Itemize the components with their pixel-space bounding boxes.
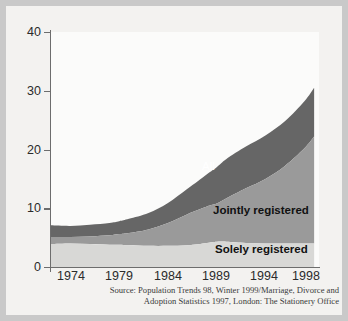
y-axis-line (50, 30, 51, 269)
source-note: Source: Population Trends 98, Winter 199… (60, 285, 339, 306)
y-tick-40 (44, 32, 50, 33)
x-axis-start-tick (50, 267, 51, 272)
x-tick-label-1984: 1984 (154, 269, 182, 283)
y-tick-label-20: 20 (27, 143, 41, 157)
x-tick-label-1974: 1974 (57, 269, 85, 283)
source-note-line-1: Source: Population Trends 98, Winter 199… (60, 285, 339, 296)
y-tick-20 (44, 150, 50, 151)
x-tick-label-1994: 1994 (250, 269, 278, 283)
y-tick-label-30: 30 (27, 84, 41, 98)
y-tick-label-40: 40 (27, 25, 41, 39)
y-tick-10 (44, 208, 50, 209)
stacked-area-series (51, 32, 319, 267)
x-axis-line (50, 267, 320, 268)
y-tick-label-0: 0 (34, 260, 41, 274)
x-tick-label-1979: 1979 (105, 269, 133, 283)
x-tick-label-1989: 1989 (202, 269, 230, 283)
y-tick-label-10: 10 (27, 201, 41, 215)
series-label-jointly-registered: Jointly registered (213, 204, 309, 216)
x-tick-label-1998: 1998 (292, 269, 320, 283)
series-label-solely-registered: Solely registered (215, 243, 308, 255)
series-label-all: All (202, 160, 215, 172)
source-note-line-2: Adoption Statistics 1997, London: The St… (60, 296, 339, 307)
figure-root: 40 30 20 10 0 1974 1979 1984 1989 1994 1… (0, 0, 348, 321)
y-tick-30 (44, 91, 50, 92)
